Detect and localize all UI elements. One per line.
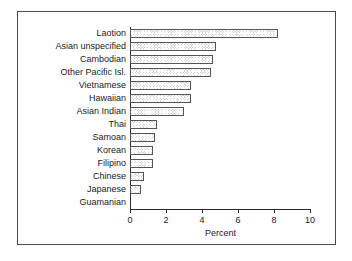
category-label: Thai (6, 118, 126, 131)
bar (130, 107, 184, 116)
category-label: Cambodian (6, 53, 126, 66)
x-axis-tick-label: 0 (115, 214, 145, 226)
bar (130, 172, 144, 181)
x-axis-title: Percent (130, 228, 311, 238)
category-label: Guamanian (6, 196, 126, 209)
category-label: Other Pacific Isl. (6, 66, 126, 79)
x-axis-tick-label: 4 (187, 214, 217, 226)
x-axis-tick (274, 209, 275, 213)
bar (130, 120, 157, 129)
x-axis-tick (310, 209, 311, 213)
x-axis-tick-label: 6 (223, 214, 253, 226)
bar (130, 68, 211, 77)
x-axis-tick-label: 8 (259, 214, 289, 226)
category-label: Vietnamese (6, 79, 126, 92)
bar (130, 159, 153, 168)
category-label: Laotion (6, 27, 126, 40)
chart-figure: Percent LaotionAsian unspecifiedCambodia… (0, 0, 352, 261)
bar (130, 146, 153, 155)
x-axis-tick (166, 209, 167, 213)
x-axis-tick-label: 2 (151, 214, 181, 226)
x-axis-tick (238, 209, 239, 213)
category-label: Samoan (6, 131, 126, 144)
bar (130, 81, 191, 90)
x-axis-tick-label: 10 (295, 214, 325, 226)
category-label: Asian Indian (6, 105, 126, 118)
category-label: Filipino (6, 157, 126, 170)
bar (130, 185, 141, 194)
category-label: Japanese (6, 183, 126, 196)
bar (130, 55, 213, 64)
category-label: Chinese (6, 170, 126, 183)
value-axis-line (130, 209, 311, 210)
bar (130, 29, 278, 38)
category-label: Asian unspecified (6, 40, 126, 53)
x-axis-tick (130, 209, 131, 213)
bar (130, 133, 155, 142)
category-label: Hawaiian (6, 92, 126, 105)
category-label: Korean (6, 144, 126, 157)
x-axis-tick (202, 209, 203, 213)
bar (130, 94, 191, 103)
bar (130, 42, 216, 51)
